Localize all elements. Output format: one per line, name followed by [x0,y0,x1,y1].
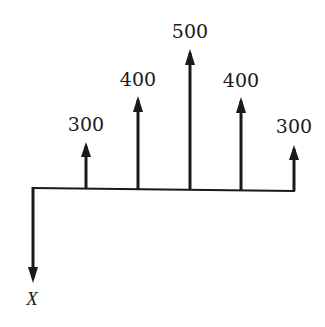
label-400-right: 400 [223,69,259,91]
label-x: X [25,288,39,309]
arrow-down-x [28,187,38,283]
arrow-up-1 [81,142,91,189]
label-300-right: 300 [276,115,312,137]
time-axis-line [33,188,295,191]
label-300-left: 300 [68,113,104,135]
arrow-up-2 [133,96,143,189]
arrow-up-5 [289,145,299,191]
cash-flow-diagram: 300 400 500 400 300 X [0,0,325,327]
label-400-left: 400 [120,68,156,90]
diagram-svg: 300 400 500 400 300 X [0,0,325,327]
arrow-up-4 [236,97,246,190]
arrow-up-3 [185,49,195,190]
label-500-center: 500 [172,20,208,42]
